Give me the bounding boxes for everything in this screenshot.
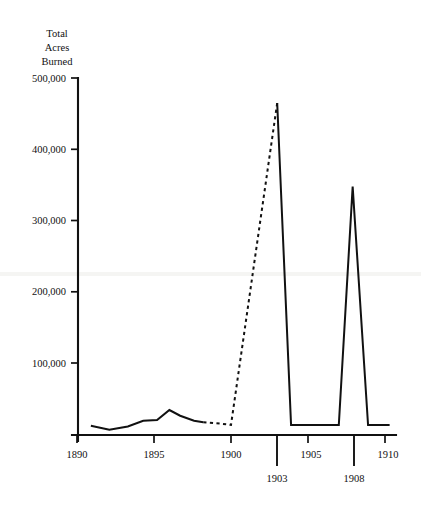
y-tick-label-100000: 100,000 — [32, 358, 66, 369]
x-tick-label-1908-emphasized: 1908 — [344, 473, 365, 484]
y-tick-label-200000: 200,000 — [32, 286, 66, 297]
x-tick-label-1895: 1895 — [144, 449, 165, 460]
series-line-estimated — [203, 103, 277, 425]
x-tick-label-1910: 1910 — [378, 449, 399, 460]
x-tick-label-1900: 1900 — [221, 449, 242, 460]
y-tick-label-300000: 300,000 — [32, 215, 66, 226]
chart-figure: Total Acres Burned 500,000 400,000 300,0… — [0, 0, 421, 512]
x-tick-label-1890: 1890 — [67, 449, 88, 460]
y-axis-title-line-3: Burned — [42, 56, 74, 67]
x-tick-label-1905: 1905 — [301, 449, 322, 460]
y-tick-label-400000: 400,000 — [32, 144, 66, 155]
line-chart-svg: Total Acres Burned 500,000 400,000 300,0… — [0, 0, 421, 512]
series-line-peaks — [277, 103, 389, 425]
y-tick-label-500000: 500,000 — [32, 73, 66, 84]
x-tick-label-1903-emphasized: 1903 — [267, 473, 288, 484]
y-axis-title-line-1: Total — [46, 28, 68, 39]
y-axis-title-line-2: Acres — [45, 42, 70, 53]
series-line-recorded — [91, 410, 203, 430]
